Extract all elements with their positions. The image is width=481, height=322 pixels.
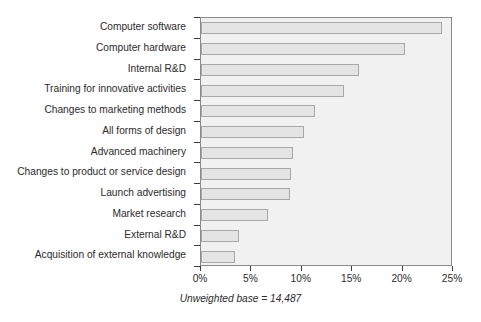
category-axis-labels: Computer softwareComputer hardwareIntern… [0,17,194,266]
x-axis-tick [351,266,352,271]
bar [201,147,293,159]
x-axis-tick-label: 0% [193,273,208,284]
category-label: Advanced machinery [91,142,186,163]
category-label: Training for innovative activities [44,79,186,100]
bar [201,43,405,55]
category-label: Launch advertising [100,183,186,204]
category-label: Market research [112,204,186,225]
category-label: All forms of design [102,121,186,142]
chart-footnote: Unweighted base = 14,487 [0,293,481,304]
category-label: Computer software [100,17,186,38]
bar [201,251,235,263]
x-axis-tick-label: 25% [442,273,462,284]
x-axis-tick [452,266,453,271]
x-axis-tick-label: 5% [243,273,258,284]
x-axis-tick [402,266,403,271]
bar [201,105,315,117]
plot-area [200,17,452,266]
x-axis-tick [200,266,201,271]
x-axis-ticks [200,266,452,272]
bar [201,22,442,34]
bar [201,188,290,200]
category-label: Computer hardware [96,38,186,59]
x-axis-tick [301,266,302,271]
category-label: Acquisition of external knowledge [35,245,186,266]
x-axis-tick-label: 15% [341,273,361,284]
bar [201,85,344,97]
x-axis-tick-label: 10% [291,273,311,284]
category-label: Internal R&D [128,59,186,80]
bar [201,126,304,138]
category-label: Changes to product or service design [17,162,186,183]
bar [201,64,359,76]
category-label: Changes to marketing methods [44,100,186,121]
bar [201,209,268,221]
bar-chart: Computer softwareComputer hardwareIntern… [0,0,481,322]
bar [201,230,239,242]
x-axis-tick-labels: 0%5%10%15%20%25% [150,273,481,289]
category-label: External R&D [124,225,186,246]
bars-layer [201,18,451,265]
x-axis-tick [250,266,251,271]
bar [201,168,291,180]
x-axis-tick-label: 20% [391,273,411,284]
